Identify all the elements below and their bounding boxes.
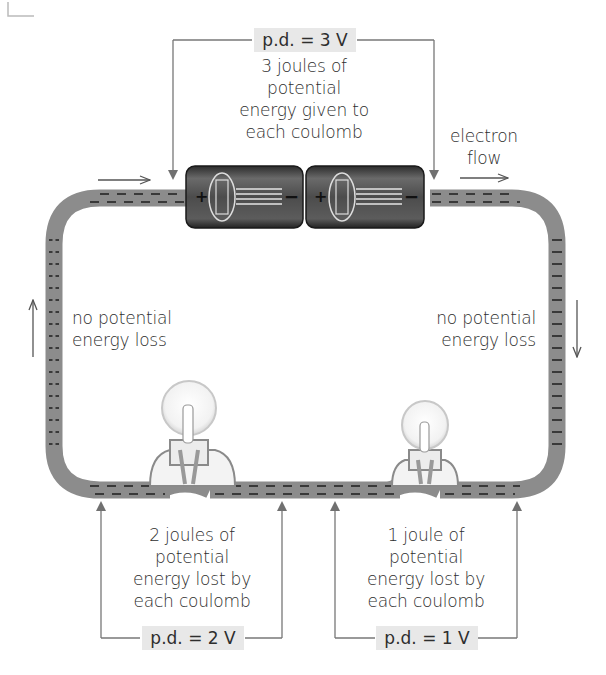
electron-flow-label: electron flow (446, 125, 522, 169)
lamp-1-energy-label: 2 joules of potential energy lost by eac… (112, 524, 272, 612)
battery-pd-label: p.d. = 3 V (254, 28, 356, 52)
lamp-1-pd-label: p.d. = 2 V (142, 626, 244, 650)
left-side-line-2: energy loss (72, 329, 212, 351)
battery-cell-2: + − (306, 166, 424, 228)
lamp-1-line-1: 2 joules of (112, 524, 272, 546)
lamp-2 (392, 401, 458, 486)
lamp-1-line-2: potential (112, 546, 272, 568)
svg-text:−: − (404, 186, 419, 207)
corner-mark (8, 2, 34, 16)
lamp-2-pd-label: p.d. = 1 V (376, 626, 478, 650)
right-side-label: no potential energy loss (396, 307, 536, 351)
lamp-2-line-2: potential (346, 546, 506, 568)
lamp-1 (150, 381, 235, 486)
battery-energy-label: 3 joules of potential energy given to ea… (206, 55, 402, 143)
lamp-2-line-4: each coulomb (346, 590, 506, 612)
battery-cell-1: + − (186, 166, 303, 228)
lamp-1-line-3: energy lost by (112, 568, 272, 590)
battery-energy-line-2: potential (206, 77, 402, 99)
battery-energy-line-1: 3 joules of (206, 55, 402, 77)
electron-flow-line-2: flow (446, 147, 522, 169)
left-side-line-1: no potential (72, 307, 212, 329)
right-side-line-2: energy loss (396, 329, 536, 351)
battery-energy-line-3: energy given to (206, 99, 402, 121)
electron-flow-line-1: electron (446, 125, 522, 147)
battery-energy-line-4: each coulomb (206, 121, 402, 143)
lamp-1-line-4: each coulomb (112, 590, 272, 612)
lamp-2-line-1: 1 joule of (346, 524, 506, 546)
lamp-2-line-3: energy lost by (346, 568, 506, 590)
right-side-line-1: no potential (396, 307, 536, 329)
svg-text:+: + (314, 187, 327, 206)
negative-terminal: − (284, 186, 299, 207)
lamp-2-energy-label: 1 joule of potential energy lost by each… (346, 524, 506, 612)
left-side-label: no potential energy loss (72, 307, 212, 351)
positive-terminal: + (195, 187, 208, 206)
